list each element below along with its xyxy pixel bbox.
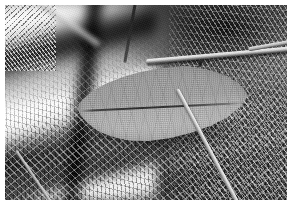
bright-foliage-clump (5, 5, 56, 71)
photograph (5, 5, 287, 200)
photo-frame (0, 0, 291, 204)
leaf (76, 63, 250, 146)
